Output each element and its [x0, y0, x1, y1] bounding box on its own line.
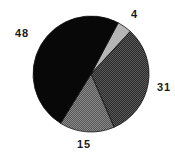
data-label-4: 4 — [131, 9, 138, 20]
pie-slices — [33, 16, 149, 132]
data-label-31: 31 — [157, 82, 171, 93]
data-label-48: 48 — [15, 28, 29, 39]
pie-chart — [0, 0, 175, 157]
data-label-15: 15 — [77, 139, 91, 150]
